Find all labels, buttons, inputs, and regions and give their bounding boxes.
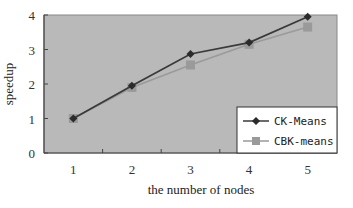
speedup-line-chart: 01234 12345 speedup the number of nodes …	[0, 0, 353, 208]
y-axis-title: speedup	[1, 63, 16, 106]
y-tick-label: 4	[29, 8, 36, 23]
x-tick-label: 4	[246, 162, 253, 177]
y-tick-label: 0	[29, 146, 36, 161]
legend-label-cbk-means: CBK-means	[274, 135, 334, 148]
legend: CK-Means CBK-means	[237, 107, 337, 153]
y-tick-label: 1	[29, 112, 36, 127]
square-marker-icon	[186, 61, 195, 70]
square-marker-icon	[303, 23, 312, 32]
x-tick-label: 2	[129, 162, 136, 177]
x-axis-title: the number of nodes	[148, 182, 255, 197]
legend-label-ck-means: CK-Means	[274, 115, 327, 128]
y-tick-label: 2	[29, 77, 36, 92]
y-tick-label: 3	[29, 43, 36, 58]
x-tick-label: 1	[70, 162, 77, 177]
square-marker-icon	[252, 137, 260, 145]
x-tick-label: 5	[304, 162, 311, 177]
x-tick-label: 3	[187, 162, 194, 177]
